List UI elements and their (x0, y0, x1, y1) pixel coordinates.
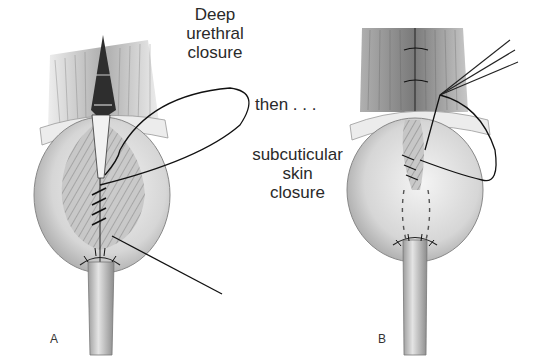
caption-line: urethral (160, 24, 270, 43)
panel-b-drawing (347, 28, 518, 355)
panel-letter-b: B (378, 332, 386, 346)
caption-then: then . . . (255, 95, 355, 114)
surgical-figure: Deep urethral closure then . . . subcuti… (0, 0, 542, 359)
caption-deep-urethral-closure: Deep urethral closure (160, 5, 270, 62)
caption-line: closure (160, 43, 270, 62)
connector-text: then . . . (255, 95, 355, 114)
panel-a-drawing (34, 35, 249, 355)
caption-line: subcuticular (245, 145, 350, 164)
caption-line: skin (245, 164, 350, 183)
caption-line: Deep (160, 5, 270, 24)
caption-line: closure (245, 183, 350, 202)
caption-subcuticular-skin-closure: subcuticular skin closure (245, 145, 350, 202)
panel-letter-a: A (50, 332, 58, 346)
